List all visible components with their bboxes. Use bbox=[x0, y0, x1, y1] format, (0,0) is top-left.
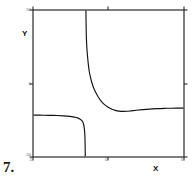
y-axis-title: Y bbox=[22, 30, 27, 38]
x-tick-label-mid: 0 bbox=[105, 158, 107, 162]
plot-frame bbox=[33, 10, 184, 157]
x-tick-label-right: 5 bbox=[181, 158, 183, 162]
x-axis-title: X bbox=[153, 165, 158, 173]
x-tick-label-left: -5 bbox=[29, 158, 33, 162]
figure-root: Y X 50 0 -50 -5 0 5 7. bbox=[0, 0, 195, 182]
plot-area: Y X 50 0 -50 -5 0 5 bbox=[0, 0, 195, 182]
y-tick-label-mid: 0 bbox=[22, 82, 31, 86]
figure-number: 7. bbox=[3, 160, 14, 175]
y-tick-label-top: 50 bbox=[22, 8, 31, 12]
